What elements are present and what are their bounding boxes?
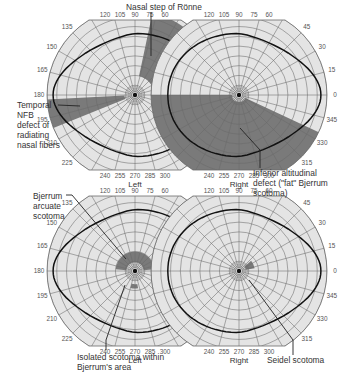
tick-label: 270 [130,172,141,179]
tick-label: 270 [234,172,245,179]
tick-label: 75 [146,11,154,18]
tick-label: 225 [62,159,73,166]
label-line: defect of [17,120,60,130]
tick-label: 345 [326,292,337,299]
fixation-point-icon [133,269,137,273]
tick-label: 300 [160,172,171,179]
tick-label: 210 [47,315,58,322]
tick-label: 105 [219,11,230,18]
tick-label: 165 [37,66,48,73]
tick-label: 15 [328,66,336,73]
tick-label: 105 [115,187,126,194]
label-line: Inferior altitudinal [253,168,328,178]
fixation-point-icon [133,93,137,97]
tick-label: 30 [319,43,327,50]
eye-label: Right [230,356,249,365]
fixation-point-icon [237,269,241,273]
tick-label: 225 [62,335,73,342]
label-line: Bjerrum's area [77,362,164,372]
tick-label: 45 [303,23,311,30]
tick-label: 120 [204,11,215,18]
tick-label: 120 [204,187,215,194]
tick-label: 270 [234,348,245,355]
label-line: arcuate [33,201,65,211]
label-line: Isolated scotoma within [77,352,164,362]
tick-label: 165 [37,242,48,249]
tick-label: 255 [219,348,230,355]
tick-label: 90 [235,187,243,194]
tick-label: 90 [131,11,139,18]
tick-label: 75 [146,187,154,194]
tick-label: 255 [219,172,230,179]
label-seidel-scotoma: Seidel scotoma [267,355,324,365]
label-line: Temporal [17,100,60,110]
tick-label: 315 [302,335,313,342]
label-bjerrum-arcuate: Bjerrum arcuate scotoma [33,191,65,221]
tick-label: 240 [204,348,215,355]
tick-label: 195 [37,292,48,299]
tick-label: 180 [34,91,45,98]
label-line: Bjerrum [33,191,65,201]
tick-label: 60 [265,11,273,18]
tick-label: 75 [250,11,258,18]
tick-label: 120 [100,11,111,18]
tick-label: 285 [249,348,260,355]
fixation-point-icon [237,93,241,97]
label-temporal-nfb: Temporal NFB defect of radiating nasal f… [17,100,60,150]
tick-label: 0 [333,91,337,98]
tick-label: 255 [115,172,126,179]
label-line: scotoma [33,211,65,221]
tick-label: 90 [131,187,139,194]
tick-label: 105 [219,187,230,194]
tick-label: 30 [319,219,327,226]
tick-label: 0 [333,267,337,274]
tick-label: 285 [145,172,156,179]
tick-label: 330 [317,139,328,146]
tick-label: 300 [264,348,275,355]
tick-label: 135 [62,23,73,30]
tick-label: 15 [328,242,336,249]
tick-label: 240 [204,172,215,179]
label-line: radiating [17,130,60,140]
tick-label: 45 [303,199,311,206]
label-inferior-altitudinal: Inferior altitudinal defect ("fat" Bjerr… [253,168,328,198]
label-line: NFB [17,110,60,120]
tick-label: 60 [161,187,169,194]
tick-label: 120 [100,187,111,194]
label-line: scotoma) [253,188,328,198]
tick-label: 240 [100,172,111,179]
tick-label: 180 [34,267,45,274]
label-isolated-scotoma: Isolated scotoma within Bjerrum's area [77,352,164,372]
tick-label: 345 [326,116,337,123]
tick-label: 105 [115,11,126,18]
tick-label: 315 [302,159,313,166]
tick-label: 90 [235,11,243,18]
visual-field-figure: 1201059075602402552702853001351501651801… [0,0,342,384]
label-line: nasal fibers [17,140,60,150]
tick-label: 150 [47,43,58,50]
label-line: defect ("fat" Bjerrum [253,178,328,188]
tick-label: 60 [161,11,169,18]
tick-label: 330 [317,315,328,322]
label-nasal-step: Nasal step of Rönne [126,2,202,12]
